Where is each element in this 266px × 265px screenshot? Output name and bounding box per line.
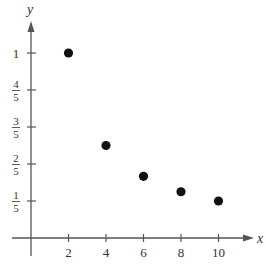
x-tick-label: 4 xyxy=(103,245,110,260)
data-point xyxy=(101,141,110,150)
y-tick-label-denominator: 5 xyxy=(13,91,19,103)
x-tick-label: 8 xyxy=(178,245,185,260)
y-tick-label-denominator: 5 xyxy=(13,202,19,214)
y-axis-arrow xyxy=(28,21,35,32)
y-tick-label: 1 xyxy=(13,46,20,61)
data-point xyxy=(64,48,73,57)
x-tick-label: 10 xyxy=(212,245,225,260)
y-tick-label-numerator: 2 xyxy=(13,152,19,164)
y-tick-label-denominator: 5 xyxy=(13,128,19,140)
data-point xyxy=(176,187,185,196)
x-tick-label: 2 xyxy=(65,245,72,260)
y-tick-label-denominator: 5 xyxy=(13,165,19,177)
data-point xyxy=(214,196,223,205)
y-axis-label: y xyxy=(25,2,34,17)
data-point xyxy=(139,172,148,181)
y-ticks: 152535451 xyxy=(12,46,36,215)
x-axis-arrow xyxy=(243,235,254,242)
data-points xyxy=(64,48,223,205)
x-tick-label: 6 xyxy=(140,245,147,260)
y-tick-label-numerator: 3 xyxy=(13,115,19,127)
y-tick-label-numerator: 1 xyxy=(13,189,19,201)
x-axis-label: x xyxy=(256,231,264,246)
y-tick-label-numerator: 4 xyxy=(13,78,19,90)
scatter-chart: x y 246810 152535451 xyxy=(0,0,266,265)
